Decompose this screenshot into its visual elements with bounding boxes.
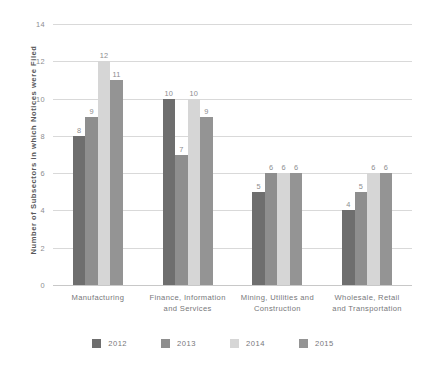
bar[interactable]	[355, 192, 368, 285]
bar[interactable]	[200, 117, 213, 285]
y-axis-tick-label: 10	[19, 94, 45, 103]
bar-group-bars: 5666	[233, 24, 323, 285]
bar-column[interactable]: 6	[380, 24, 393, 285]
legend-label: 2013	[177, 339, 196, 348]
legend-item[interactable]: 2015	[299, 339, 334, 348]
bar[interactable]	[73, 136, 86, 285]
legend-label: 2012	[108, 339, 127, 348]
gridline	[53, 285, 412, 286]
bar-groups: 89121110710956664566	[53, 24, 412, 285]
bar[interactable]	[277, 173, 290, 285]
y-axis-tick-label: 12	[19, 57, 45, 66]
bar-group-bars: 4566	[322, 24, 412, 285]
category-label: Mining, Utilities andConstruction	[233, 292, 323, 314]
y-axis-tick-label: 14	[19, 20, 45, 29]
legend-swatch-icon	[161, 339, 170, 348]
bar[interactable]	[188, 99, 201, 285]
bar-column[interactable]: 11	[110, 24, 123, 285]
y-axis-tick-label: 8	[19, 131, 45, 140]
bar[interactable]	[290, 173, 303, 285]
bar-column[interactable]: 9	[85, 24, 98, 285]
bar-value-label: 9	[89, 107, 93, 116]
category-label: Finance, Informationand Services	[143, 292, 233, 314]
category-label: Wholesale, Retailand Transportation	[322, 292, 412, 314]
bar-value-label: 6	[294, 163, 298, 172]
bar-column[interactable]: 10	[163, 24, 176, 285]
bar-column[interactable]: 8	[73, 24, 86, 285]
bar-value-label: 11	[112, 70, 120, 79]
bar[interactable]	[367, 173, 380, 285]
bar[interactable]	[110, 80, 123, 285]
bar-column[interactable]: 4	[342, 24, 355, 285]
bar-column[interactable]: 7	[175, 24, 188, 285]
bar[interactable]	[175, 155, 188, 286]
bar-value-label: 12	[100, 51, 109, 60]
bar[interactable]	[163, 99, 176, 285]
bar-value-label: 8	[77, 126, 81, 135]
bar-value-label: 10	[164, 89, 173, 98]
legend-label: 2015	[315, 339, 334, 348]
legend-item[interactable]: 2014	[230, 339, 265, 348]
bar-column[interactable]: 10	[188, 24, 201, 285]
bar[interactable]	[85, 117, 98, 285]
legend-swatch-icon	[230, 339, 239, 348]
bar-value-label: 10	[189, 89, 198, 98]
bar-column[interactable]: 5	[355, 24, 368, 285]
bar-value-label: 5	[256, 182, 260, 191]
bar-value-label: 6	[384, 163, 388, 172]
chart-legend: 2012201320142015	[0, 339, 426, 348]
y-axis-tick-label: 0	[19, 281, 45, 290]
bar-value-label: 6	[269, 163, 273, 172]
bar[interactable]	[342, 210, 355, 285]
bar-value-label: 9	[204, 107, 208, 116]
bar-value-label: 6	[281, 163, 285, 172]
bar-value-label: 7	[179, 145, 183, 154]
bar[interactable]	[252, 192, 265, 285]
legend-label: 2014	[246, 339, 265, 348]
legend-swatch-icon	[299, 339, 308, 348]
bar-value-label: 4	[346, 200, 350, 209]
category-label: Manufacturing	[53, 292, 143, 314]
bar[interactable]	[380, 173, 393, 285]
bar-column[interactable]: 12	[98, 24, 111, 285]
bar-group: 107109	[143, 24, 233, 285]
bar-column[interactable]: 6	[265, 24, 278, 285]
legend-swatch-icon	[92, 339, 101, 348]
bar[interactable]	[265, 173, 278, 285]
bar-column[interactable]: 6	[290, 24, 303, 285]
y-axis-title: Number of Subsectors in which Notices we…	[22, 0, 44, 300]
category-axis-labels: ManufacturingFinance, Informationand Ser…	[53, 292, 412, 314]
bar-group: 4566	[322, 24, 412, 285]
bar-group: 5666	[233, 24, 323, 285]
bar-column[interactable]: 9	[200, 24, 213, 285]
y-axis-tick-label: 2	[19, 243, 45, 252]
bar-column[interactable]: 6	[367, 24, 380, 285]
bar-chart: Number of Subsectors in which Notices we…	[0, 0, 426, 365]
bar-value-label: 5	[359, 182, 363, 191]
bar-group-bars: 107109	[143, 24, 233, 285]
bar-group: 891211	[53, 24, 143, 285]
legend-item[interactable]: 2013	[161, 339, 196, 348]
y-axis-tick-label: 4	[19, 206, 45, 215]
y-axis-tick-label: 6	[19, 169, 45, 178]
bar-column[interactable]: 5	[252, 24, 265, 285]
bar-value-label: 6	[371, 163, 375, 172]
bar[interactable]	[98, 61, 111, 285]
bar-group-bars: 891211	[53, 24, 143, 285]
legend-item[interactable]: 2012	[92, 339, 127, 348]
bar-column[interactable]: 6	[277, 24, 290, 285]
